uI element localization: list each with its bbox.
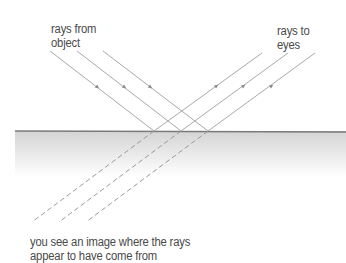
- reflected-rays: [154, 53, 315, 131]
- incident-arrows: [95, 84, 154, 90]
- arrow-icon: [269, 83, 275, 89]
- caption-line: you see an image where the rays: [30, 235, 190, 249]
- reflected-ray-3: [208, 53, 315, 131]
- incident-ray-1: [50, 51, 154, 131]
- label-rays-from-object: rays from object: [51, 22, 96, 50]
- label-line: object: [51, 36, 96, 50]
- incident-ray-3: [103, 51, 208, 131]
- incident-ray-2: [77, 51, 181, 131]
- label-line: rays from: [51, 22, 96, 36]
- label-rays-to-eyes: rays to eyes: [277, 24, 310, 52]
- mirror: [15, 131, 346, 177]
- mirror-shade: [15, 131, 346, 177]
- reflected-ray-2: [181, 53, 288, 131]
- caption: you see an image where the rays appear t…: [30, 235, 190, 263]
- reflected-arrows: [214, 83, 275, 89]
- label-line: rays to: [277, 24, 310, 38]
- reflected-ray-1: [154, 53, 262, 131]
- incident-rays: [50, 51, 208, 131]
- caption-line: appear to have come from: [30, 249, 190, 263]
- label-line: eyes: [277, 38, 310, 52]
